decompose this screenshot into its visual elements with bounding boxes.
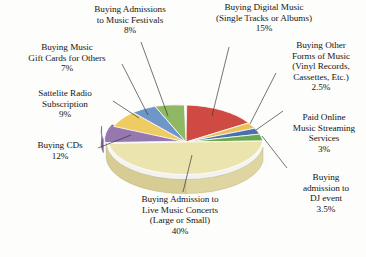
label-line: (Large or Small) (112, 215, 248, 226)
label-music-festivals: Buying Admissions to Music Festivals 8% (64, 4, 196, 36)
label-line: Buying Other (276, 40, 366, 51)
label-line: Buying Digital Music (196, 2, 332, 13)
leader-festivals (141, 42, 168, 116)
label-percent: 9% (4, 109, 126, 120)
label-music-gift-cards: Buying Music Gift Cards for Others 7% (2, 42, 132, 74)
leader-digital (212, 47, 229, 116)
label-line: Buying Admissions (64, 4, 196, 15)
label-line: Services (282, 133, 366, 144)
label-paid-online-streaming: Paid Online Music Streaming Services 3% (282, 112, 366, 154)
label-line: Subscription (4, 99, 126, 110)
label-line: DJ event (286, 193, 366, 204)
label-line: Buying (286, 172, 366, 183)
label-percent: 3.5% (286, 204, 366, 215)
label-line: Buying Admission to (112, 194, 248, 205)
label-percent: 15% (196, 23, 332, 34)
label-other-forms-of-music: Buying Other Forms of Music (Vinyl Recor… (276, 40, 366, 93)
chart-page: Buying Admissions to Music Festivals 8% … (0, 0, 366, 257)
label-buying-cds: Buying CDs 12% (4, 140, 116, 161)
label-percent: 2.5% (276, 82, 366, 93)
leader-streaming (256, 111, 283, 130)
label-satellite-radio: Sattelite Radio Subscription 9% (4, 88, 126, 120)
label-line: Buying CDs (4, 140, 116, 151)
label-line: Buying Music (2, 42, 132, 53)
label-line: Live Music Concerts (112, 205, 248, 216)
label-percent: 40% (112, 226, 248, 237)
label-line: Cassettes, Etc.) (276, 72, 366, 83)
label-line: Music Streaming (282, 123, 366, 134)
label-live-music-concerts: Buying Admission to Live Music Concerts … (112, 194, 248, 236)
label-line: Forms of Music (276, 51, 366, 62)
label-percent: 3% (282, 144, 366, 155)
label-percent: 8% (64, 25, 196, 36)
label-line: (Single Tracks or Albums) (196, 13, 332, 24)
label-percent: 7% (2, 63, 132, 74)
leader-other (250, 73, 276, 124)
label-line: Gift Cards for Others (2, 53, 132, 64)
label-line: (Vinyl Records, (276, 61, 366, 72)
label-percent: 12% (4, 151, 116, 162)
label-line: admission to (286, 183, 366, 194)
label-digital-music: Buying Digital Music (Single Tracks or A… (196, 2, 332, 34)
label-line: Sattelite Radio (4, 88, 126, 99)
label-dj-event: Buying admission to DJ event 3.5% (286, 172, 366, 214)
label-line: Paid Online (282, 112, 366, 123)
label-line: to Music Festivals (64, 15, 196, 26)
